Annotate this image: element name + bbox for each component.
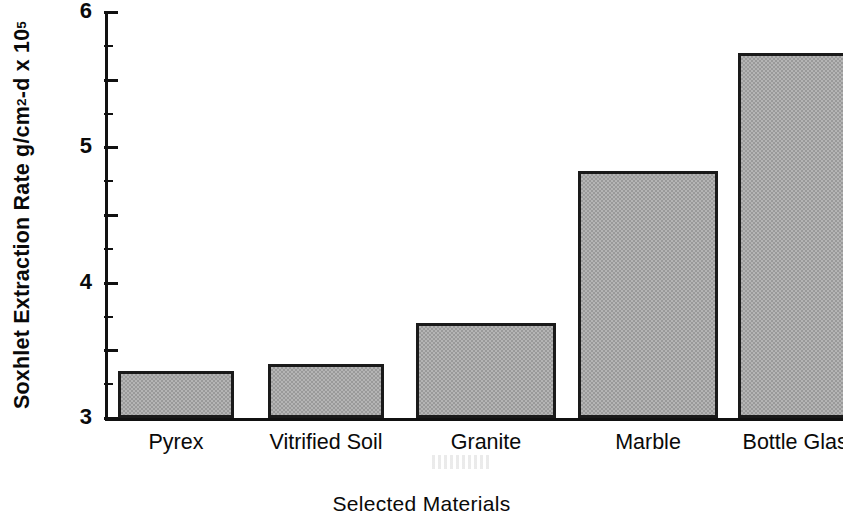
y-axis-title: Soxhlet Extraction Rate g/cm2-d x 105: [0, 0, 44, 430]
y-axis-tick-major: 6: [104, 11, 118, 14]
x-axis-category-label: Bottle Glass: [743, 430, 843, 455]
y-axis-tick-major: 3: [104, 214, 118, 217]
y-axis-tick-major: 5: [104, 79, 118, 82]
y-axis-tick-minor: [104, 45, 113, 47]
y-axis-title-prefix: Soxhlet Extraction Rate g/cm: [10, 106, 35, 409]
y-axis-tick-label: 4: [80, 271, 92, 293]
y-axis-tick-label: 6: [80, 0, 92, 22]
plot-area: 0123456: [105, 12, 843, 418]
y-axis-tick-major: 2: [104, 282, 118, 285]
y-axis-tick-major: 0: [104, 417, 118, 420]
y-axis-tick-major: 4: [104, 146, 118, 149]
x-axis-category-label: Pyrex: [149, 430, 204, 455]
y-axis-title-middle: -d x 10: [10, 29, 35, 99]
y-axis-tick-minor: [104, 383, 113, 385]
y-axis-tick-minor: [104, 113, 113, 115]
y-axis-tick-major: 1: [104, 349, 118, 352]
y-axis-tick-minor: [104, 180, 113, 182]
bar: [118, 371, 234, 418]
bar: [738, 53, 843, 418]
x-axis-category-label: Marble: [615, 430, 681, 455]
y-axis-tick-minor: [104, 316, 113, 318]
y-axis-tick-minor: [104, 248, 113, 250]
y-axis-tick-label: 3: [80, 406, 92, 428]
bar: [268, 364, 384, 418]
x-axis-title: Selected Materials: [0, 492, 843, 516]
scan-artifact: [432, 455, 492, 469]
bar-chart-figure: Soxhlet Extraction Rate g/cm2-d x 105 01…: [0, 0, 843, 529]
x-axis-category-label: Vitrified Soil: [269, 430, 382, 455]
bar: [416, 323, 556, 418]
x-axis-line: [105, 418, 843, 421]
bar: [578, 171, 718, 418]
y-axis-tick-label: 5: [80, 135, 92, 157]
x-axis-category-label: Granite: [451, 430, 522, 455]
